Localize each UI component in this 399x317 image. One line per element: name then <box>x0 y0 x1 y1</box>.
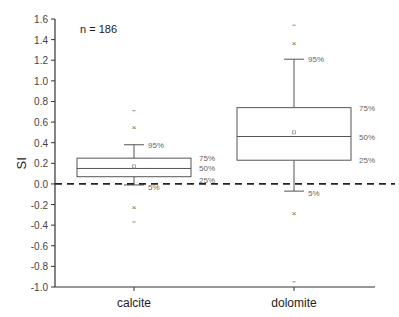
box-plot-figure: 1.61.41.21.00.80.60.40.20.0-0.2-0.4-0.6-… <box>0 0 399 317</box>
y-tick-label: 0.0 <box>34 179 48 190</box>
outlier-x-marker: × <box>292 39 297 48</box>
y-tick-label: -0.6 <box>31 241 49 252</box>
x-tick-label: dolomite <box>271 296 317 310</box>
y-tick-label: -0.8 <box>31 261 49 272</box>
label-50: 50% <box>199 164 215 173</box>
outlier-x-marker: × <box>132 203 137 212</box>
box-iqr <box>77 158 191 177</box>
y-tick-label: 0.8 <box>34 96 48 107</box>
label-50: 50% <box>359 133 375 142</box>
y-tick-label: 0.2 <box>34 158 48 169</box>
y-axis-label: SI <box>14 157 29 169</box>
sample-size-annotation: n = 186 <box>80 23 117 35</box>
y-tick-label: 1.0 <box>34 76 48 87</box>
y-tick-label: -0.2 <box>31 200 49 211</box>
label-25: 25% <box>359 156 375 165</box>
y-tick-label: 0.4 <box>34 138 48 149</box>
outlier-x-marker: × <box>132 123 137 132</box>
label-75: 75% <box>199 154 215 163</box>
box-plot: 1.61.41.21.00.80.60.40.20.0-0.2-0.4-0.6-… <box>0 0 399 317</box>
y-tick-label: 1.2 <box>34 55 48 66</box>
x-tick-label: calcite <box>117 296 151 310</box>
label-5: 5% <box>308 189 320 198</box>
y-tick-label: 0.6 <box>34 117 48 128</box>
label-95: 95% <box>148 141 164 150</box>
y-tick-label: 1.4 <box>34 35 48 46</box>
y-tick-label: -0.4 <box>31 220 49 231</box>
y-tick-label: -1.0 <box>31 282 49 293</box>
y-tick-label: 1.6 <box>34 14 48 25</box>
outlier-x-marker: × <box>292 209 297 218</box>
label-95: 95% <box>308 55 324 64</box>
label-75: 75% <box>359 104 375 113</box>
